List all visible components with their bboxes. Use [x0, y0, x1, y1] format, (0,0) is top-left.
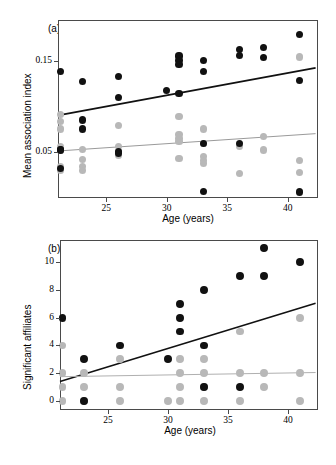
data-point-grey — [236, 369, 244, 377]
y-tickmark — [56, 373, 60, 374]
data-point-black — [200, 383, 208, 391]
y-tick-label: 8 — [18, 284, 54, 294]
data-point-grey — [164, 397, 172, 405]
data-point-black — [116, 342, 124, 350]
y-tickmark — [56, 318, 60, 319]
data-point-grey — [80, 369, 88, 377]
x-tick-label: 30 — [153, 415, 183, 425]
x-tick-label: 25 — [93, 415, 123, 425]
panel-b-x-axis-title: Age (years) — [120, 425, 260, 436]
data-point-grey — [59, 383, 67, 391]
data-point-grey — [176, 369, 184, 377]
data-point-grey — [296, 369, 304, 377]
data-point-black — [236, 383, 244, 391]
data-point-grey — [80, 383, 88, 391]
y-tick-label: 0 — [18, 395, 54, 405]
y-tick-label: 4 — [18, 339, 54, 349]
y-tickmark — [56, 290, 60, 291]
data-point-grey — [116, 397, 124, 405]
data-point-grey — [236, 397, 244, 405]
y-tick-label: 10 — [18, 256, 54, 266]
data-point-grey — [176, 383, 184, 391]
trendline-grey-fit — [60, 373, 316, 377]
y-tickmark — [56, 345, 60, 346]
x-tick-label: 40 — [273, 415, 303, 425]
data-point-black — [200, 286, 208, 294]
data-point-black — [296, 258, 304, 266]
data-point-grey — [296, 314, 304, 322]
data-point-grey — [296, 397, 304, 405]
data-point-grey — [260, 369, 268, 377]
data-point-grey — [260, 383, 268, 391]
x-tickmark — [228, 410, 229, 414]
data-point-grey — [116, 383, 124, 391]
x-tick-label: 35 — [213, 415, 243, 425]
y-tickmark — [56, 262, 60, 263]
y-tickmark — [56, 401, 60, 402]
data-point-black — [80, 397, 88, 405]
trendline-black-fit — [60, 303, 316, 381]
x-tickmark — [108, 410, 109, 414]
data-point-grey — [200, 397, 208, 405]
data-point-black — [200, 342, 208, 350]
data-point-grey — [176, 397, 184, 405]
data-point-black — [236, 272, 244, 280]
y-tick-label: 2 — [18, 367, 54, 377]
data-point-black — [176, 300, 184, 308]
y-tick-label: 6 — [18, 312, 54, 322]
x-tickmark — [168, 410, 169, 414]
data-point-black — [260, 272, 268, 280]
data-point-black — [176, 314, 184, 322]
x-tickmark — [288, 410, 289, 414]
data-point-grey — [200, 369, 208, 377]
